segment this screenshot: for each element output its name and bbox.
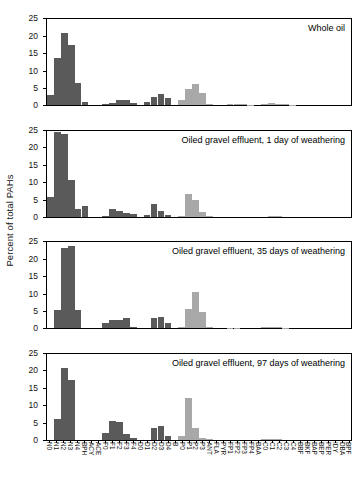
y-tick: [43, 200, 46, 201]
bar: [158, 211, 165, 217]
y-tick: [43, 88, 46, 89]
bar: [61, 368, 68, 440]
bar: [61, 134, 68, 217]
plot-area: Oiled gravel effluent, 97 days of weathe…: [46, 353, 352, 441]
x-tick-label: D4: [164, 441, 171, 487]
bar: [165, 436, 172, 439]
panel-35-days: Oiled gravel effluent, 35 days of weathe…: [46, 241, 352, 329]
bar: [275, 327, 282, 328]
bar: [116, 211, 123, 217]
bar: [165, 215, 172, 216]
y-tick-label: 5: [16, 418, 38, 428]
panel-title: Whole oil: [308, 23, 345, 33]
bar: [158, 317, 165, 328]
panel-title: Oiled gravel effluent, 1 day of weatheri…: [182, 135, 345, 145]
y-tick-label: 25: [16, 236, 38, 246]
bar: [199, 93, 206, 105]
bar: [68, 246, 75, 328]
bar: [151, 318, 158, 328]
bar: [109, 103, 116, 105]
panel-97-days: Oiled gravel effluent, 97 days of weathe…: [46, 353, 352, 441]
bar: [192, 84, 199, 105]
bar: [54, 132, 61, 216]
panel-title: Oiled gravel effluent, 35 days of weathe…: [172, 246, 345, 256]
bar: [234, 104, 241, 105]
bar: [123, 100, 130, 105]
pah-composition-figure: Percent of total PAHs Whole oil051015202…: [0, 0, 357, 487]
x-tick-label: BBF: [296, 441, 303, 487]
bar: [144, 102, 151, 105]
bar: [185, 398, 192, 439]
bar: [192, 200, 199, 216]
x-tick-label: F3: [122, 441, 129, 487]
bar: [75, 209, 82, 217]
panel-title: Oiled gravel effluent, 97 days of weathe…: [172, 358, 345, 368]
panel-1-day: Oiled gravel effluent, 1 day of weatheri…: [46, 130, 352, 218]
bar: [151, 97, 158, 105]
x-tick-label: F1: [109, 441, 116, 487]
bar: [185, 309, 192, 328]
y-tick: [43, 370, 46, 371]
bar: [116, 422, 123, 440]
x-tick-label: P0: [178, 441, 185, 487]
x-tick-label: PER: [324, 441, 331, 487]
y-axis-label-text: Percent of total PAHs: [4, 174, 15, 266]
bar: [102, 323, 109, 328]
y-tick: [43, 217, 46, 218]
x-axis-labels: N0N1N2N3N4BPHACYACEF0F1F2F3F4D0D1D2D3D4B…: [46, 441, 352, 487]
y-tick: [43, 71, 46, 72]
bar: [109, 320, 116, 328]
bar: [116, 320, 123, 328]
bar: [282, 104, 289, 105]
bar: [192, 292, 199, 328]
y-tick: [43, 130, 46, 131]
y-tick-label: 15: [16, 383, 38, 393]
bar: [102, 104, 109, 105]
y-tick: [43, 105, 46, 106]
x-tick-label: C0: [262, 441, 269, 487]
bar: [123, 434, 130, 440]
bar: [144, 215, 151, 216]
bar: [75, 310, 82, 328]
x-tick-label: BKF: [303, 441, 310, 487]
x-tick-label: D0: [136, 441, 143, 487]
x-tick-label: C3: [282, 441, 289, 487]
bar: [116, 100, 123, 105]
y-tick: [43, 311, 46, 312]
y-tick-label: 0: [16, 100, 38, 110]
bar: [165, 323, 172, 329]
x-tick-label: F2: [116, 441, 123, 487]
y-tick-label: 15: [16, 48, 38, 58]
y-tick-label: 10: [16, 177, 38, 187]
bar: [206, 104, 213, 105]
bar: [47, 197, 54, 217]
x-tick-label: BAP: [310, 441, 317, 487]
y-tick: [43, 294, 46, 295]
y-tick-label: 25: [16, 125, 38, 135]
bar: [158, 426, 165, 439]
bar-series: [47, 19, 351, 105]
x-tick-label: D3: [157, 441, 164, 487]
bar: [47, 95, 54, 105]
bar: [130, 327, 137, 328]
bar: [199, 312, 206, 328]
bar: [61, 248, 68, 328]
y-tick-label: 25: [16, 348, 38, 358]
y-tick-label: 10: [16, 66, 38, 76]
bar: [82, 206, 89, 216]
bar: [54, 419, 61, 440]
y-tick: [43, 276, 46, 277]
y-tick-label: 25: [16, 13, 38, 23]
bar: [268, 103, 275, 105]
y-tick-label: 20: [16, 31, 38, 41]
x-tick-label: C2: [275, 441, 282, 487]
plot-area: Oiled gravel effluent, 1 day of weatheri…: [46, 130, 352, 218]
bar: [227, 104, 234, 105]
y-tick-label: 5: [16, 195, 38, 205]
y-tick-label: 20: [16, 142, 38, 152]
y-tick-label: 5: [16, 306, 38, 316]
bar: [192, 428, 199, 439]
bar: [102, 216, 109, 217]
bar: [109, 209, 116, 216]
bar: [268, 327, 275, 328]
